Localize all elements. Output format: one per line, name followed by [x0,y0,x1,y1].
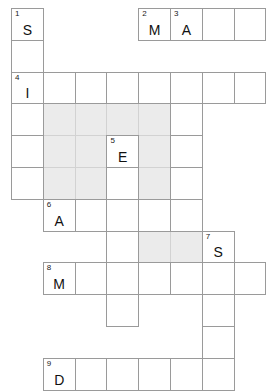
crossword-cell[interactable] [202,294,235,327]
cell-number: 6 [47,201,51,209]
cell-number: 2 [142,10,146,18]
cell-letter: I [12,86,43,101]
crossword-cell[interactable] [11,167,44,200]
crossword-cell[interactable] [11,135,44,168]
crossword-cell[interactable] [106,167,139,200]
crossword-cell[interactable]: 5E [106,135,139,168]
cell-number: 7 [206,233,210,241]
crossword-cell[interactable] [75,358,108,391]
crossword-cell[interactable] [106,231,139,264]
crossword-cell[interactable]: 9D [43,358,76,391]
crossword-cell[interactable] [75,72,108,105]
crossword-cell[interactable] [11,103,44,136]
crossword-cell[interactable] [202,326,235,359]
crossword-cell[interactable] [106,262,139,295]
crossword-cell[interactable]: 7S [202,231,235,264]
cell-letter: S [203,245,234,260]
crossword-cell-shaded [170,231,203,264]
crossword-cell-shaded [43,167,76,200]
crossword-cell-shaded [75,135,108,168]
crossword-cell-shaded [43,135,76,168]
crossword-cell[interactable] [170,358,203,391]
crossword-cell[interactable] [170,167,203,200]
crossword-cell[interactable]: 6A [43,199,76,232]
cell-number: 5 [110,137,114,145]
crossword-cell[interactable] [75,199,108,232]
crossword-cell[interactable]: 3A [170,8,203,41]
crossword-cell[interactable]: 4I [11,72,44,105]
crossword-cell[interactable] [170,262,203,295]
crossword-cell[interactable] [202,72,235,105]
cell-letter: S [12,23,43,38]
crossword-cell[interactable] [106,72,139,105]
crossword-cell[interactable]: 1S [11,8,44,41]
crossword-cell[interactable] [202,262,235,295]
cell-number: 3 [174,10,178,18]
crossword-cell-shaded [75,103,108,136]
cell-letter: E [107,150,138,165]
crossword-cell[interactable] [170,199,203,232]
cell-number: 8 [47,264,51,272]
crossword-cell[interactable] [138,262,171,295]
crossword-cell[interactable] [106,358,139,391]
crossword-cell-shaded [138,135,171,168]
cell-number: 9 [47,360,51,368]
cell-letter: A [171,23,202,38]
crossword-cell[interactable] [106,294,139,327]
crossword-cell[interactable]: 2M [138,8,171,41]
crossword-cell[interactable] [138,72,171,105]
crossword-cell[interactable] [170,103,203,136]
cell-number: 1 [15,10,19,18]
cell-letter: A [44,214,75,229]
crossword-cell-shaded [43,103,76,136]
crossword-cell[interactable] [202,8,235,41]
cell-letter: M [44,277,75,292]
crossword-cell[interactable] [11,40,44,73]
cell-number: 4 [15,74,19,82]
crossword-cell-shaded [138,103,171,136]
cell-letter: M [139,23,170,38]
crossword-cell[interactable] [138,358,171,391]
crossword-cell[interactable] [234,8,267,41]
crossword-cell-shaded [138,231,171,264]
crossword-cell[interactable] [106,199,139,232]
crossword-cell[interactable] [43,72,76,105]
crossword-cell[interactable] [138,199,171,232]
crossword-cell[interactable] [170,135,203,168]
crossword-cell-shaded [138,167,171,200]
crossword-cell[interactable] [202,358,235,391]
crossword-cell[interactable] [170,72,203,105]
crossword-cell[interactable] [75,262,108,295]
crossword-cell[interactable] [234,262,267,295]
crossword-cell[interactable]: 8M [43,262,76,295]
crossword-cell-shaded [106,103,139,136]
crossword-cell[interactable] [234,72,267,105]
cell-letter: D [44,373,75,388]
crossword-cell-shaded [75,167,108,200]
